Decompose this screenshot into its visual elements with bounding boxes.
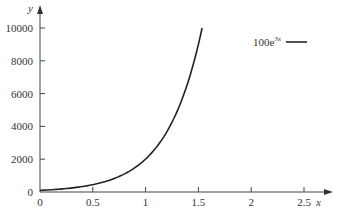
legend-label: 100e3x [253, 35, 282, 48]
y-tick-label: 2000 [11, 153, 34, 165]
y-tick-label: 0 [28, 186, 34, 198]
y-axis-label: y [27, 2, 33, 14]
x-axis: x [40, 189, 333, 208]
y-tick-label: 10000 [6, 22, 34, 34]
y-tick-label: 8000 [11, 55, 34, 67]
y-tick-label: 6000 [11, 88, 34, 100]
x-tick-label: 0 [37, 196, 43, 208]
y-axis-arrow-icon [37, 5, 43, 14]
x-tick-label: 1.5 [192, 196, 206, 208]
chart: y x 0200040006000800010000 00.511.522.5 … [0, 0, 338, 222]
x-axis-label: x [315, 196, 321, 208]
x-tick-label: 1 [143, 196, 149, 208]
legend: 100e3x [253, 35, 307, 48]
x-tick-label: 0.5 [86, 196, 100, 208]
x-axis-arrow-icon [324, 189, 333, 195]
x-ticks: 00.511.522.5 [37, 187, 311, 208]
y-ticks: 0200040006000800010000 [6, 22, 46, 198]
x-tick-label: 2 [248, 196, 254, 208]
y-tick-label: 4000 [11, 120, 34, 132]
series-line-100e3x [40, 28, 202, 190]
x-tick-label: 2.5 [297, 196, 311, 208]
